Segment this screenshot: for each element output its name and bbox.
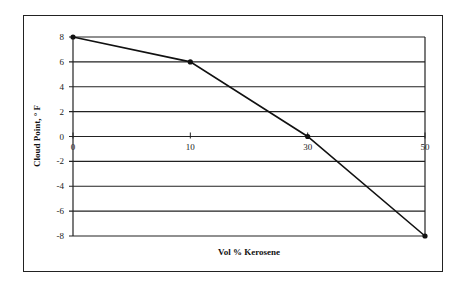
x-tick-label: 0	[71, 142, 76, 152]
x-tick-label: 50	[421, 142, 431, 152]
horizontal-gridlines	[69, 37, 425, 236]
y-tick-label: 8	[60, 32, 65, 42]
x-tick-label: 30	[303, 142, 313, 152]
data-point-marker	[70, 34, 75, 39]
data-point-marker	[422, 233, 427, 238]
y-tick-labels: 86420-2-4-6-8	[57, 32, 65, 241]
x-tick-labels: 0103050	[71, 133, 430, 152]
y-tick-label: -8	[57, 231, 65, 241]
y-tick-label: 2	[60, 107, 65, 117]
x-axis-title: Vol % Kerosene	[218, 247, 280, 257]
chart-plot: 86420-2-4-6-8 0103050 Cloud Point, ° F V…	[0, 0, 465, 294]
y-axis-title: Cloud Point, ° F	[32, 104, 42, 167]
y-tick-label: -4	[57, 181, 65, 191]
y-tick-label: 4	[60, 82, 65, 92]
data-point-marker	[305, 134, 310, 139]
y-tick-label: -6	[57, 206, 65, 216]
x-tick-label: 10	[186, 142, 196, 152]
y-tick-label: -2	[57, 156, 65, 166]
y-tick-label: 0	[60, 132, 65, 142]
y-tick-label: 6	[60, 57, 65, 67]
data-point-marker	[188, 59, 193, 64]
